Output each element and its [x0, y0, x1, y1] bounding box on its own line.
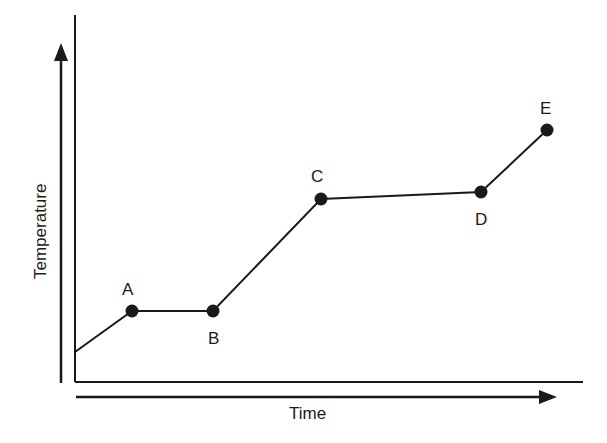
heating-curve-diagram — [0, 0, 607, 443]
point-label-b: B — [208, 330, 219, 347]
point-label-e: E — [540, 100, 551, 117]
point-label-d: D — [475, 211, 487, 228]
point-c — [315, 193, 328, 206]
point-label-a: A — [122, 281, 133, 298]
y-axis-label: Temperature — [31, 184, 51, 279]
point-e — [541, 124, 554, 137]
time-arrow-head-icon — [539, 390, 557, 404]
point-a — [126, 305, 139, 318]
temperature-arrow-head-icon — [54, 43, 68, 61]
x-axis-label: Time — [289, 405, 326, 422]
heating-curve-line — [75, 130, 547, 352]
point-d — [475, 186, 488, 199]
point-label-c: C — [311, 168, 323, 185]
point-b — [207, 305, 220, 318]
